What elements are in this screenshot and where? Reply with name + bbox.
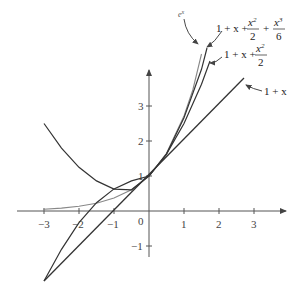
svg-text:1 + x +: 1 + x +: [216, 22, 248, 34]
cubic-curve: [44, 48, 207, 281]
ex-label: ex: [178, 9, 185, 19]
svg-text:x2: x2: [255, 42, 265, 54]
svg-text:1 + x +: 1 + x +: [224, 48, 256, 60]
linear-label: 1 + x: [264, 85, 287, 97]
svg-text:x2: x2: [247, 16, 257, 28]
x-tick-label: −3: [38, 218, 50, 230]
svg-text:+: +: [263, 22, 269, 34]
linear-arrow: [246, 85, 262, 91]
svg-text:2: 2: [250, 30, 256, 42]
taylor-diagram: −3 −2 −1 0 1 2 3 −1 1 2 3 ex 1 + x + x2 …: [0, 0, 302, 290]
quadratic-curve: [44, 61, 210, 190]
svg-text:x3: x3: [273, 16, 283, 28]
x-tick-label: 1: [181, 218, 187, 230]
cubic-label: 1 + x + x2 2 + x3 6: [216, 16, 285, 42]
quadratic-label: 1 + x + x2 2: [224, 42, 267, 68]
x-tick-label: 2: [216, 218, 222, 230]
y-tick-label: 2: [138, 135, 144, 147]
y-tick-label: −1: [131, 240, 143, 252]
x-tick-label: 0: [138, 215, 144, 227]
y-tick-label: 3: [138, 100, 144, 112]
x-tick-label: −1: [107, 218, 119, 230]
svg-text:6: 6: [276, 30, 282, 42]
quadratic-arrow: [210, 57, 222, 63]
ex-curve: [44, 54, 202, 211]
x-tick-label: 3: [251, 218, 257, 230]
svg-text:2: 2: [258, 56, 264, 68]
ex-arrow: [184, 19, 198, 44]
linear-line: [44, 78, 244, 281]
